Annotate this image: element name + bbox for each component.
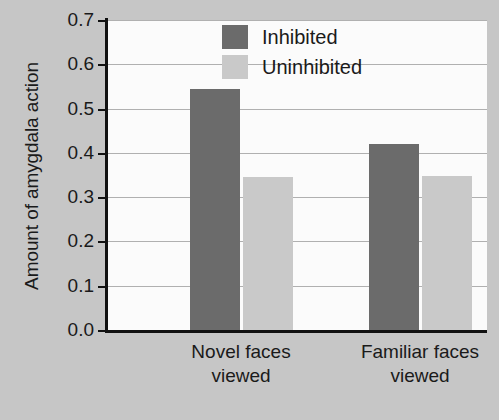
- chart-legend: InhibitedUninhibited: [222, 22, 472, 82]
- y-axis-tick: [98, 330, 107, 332]
- gridline: [108, 153, 487, 154]
- y-axis-tick-label: 0.7: [38, 9, 94, 31]
- legend-label: Uninhibited: [262, 56, 362, 79]
- x-axis-label-line: Novel faces: [156, 340, 326, 364]
- x-axis-label-line: Familiar faces: [335, 340, 499, 364]
- bar-inhibited-1: [369, 144, 419, 330]
- y-axis-tick-label: 0.0: [38, 319, 94, 341]
- y-axis-tick-label: 0.3: [38, 186, 94, 208]
- gridline: [108, 109, 487, 110]
- y-axis-tick: [98, 64, 107, 66]
- y-axis-tick: [98, 153, 107, 155]
- x-axis-label-line: viewed: [335, 364, 499, 388]
- gridline: [108, 20, 487, 21]
- x-axis-group-label-0: Novel facesviewed: [156, 340, 326, 388]
- y-axis-tick: [98, 197, 107, 199]
- y-axis-tick-label: 0.5: [38, 98, 94, 120]
- legend-item-uninhibited: Uninhibited: [222, 52, 472, 82]
- x-axis-label-line: viewed: [156, 364, 326, 388]
- y-axis-tick-label: 0.4: [38, 142, 94, 164]
- y-axis-tick-label: 0.6: [38, 53, 94, 75]
- y-axis-tick: [98, 241, 107, 243]
- y-axis-tick-labels: 0.70.60.50.40.30.20.10.0: [38, 0, 94, 420]
- x-axis-group-label-1: Familiar facesviewed: [335, 340, 499, 388]
- y-axis-tick-label: 0.1: [38, 275, 94, 297]
- legend-item-inhibited: Inhibited: [222, 22, 472, 52]
- bar-inhibited-0: [190, 89, 240, 330]
- y-axis-tick: [98, 20, 107, 22]
- legend-swatch-icon: [222, 25, 248, 49]
- bar-uninhibited-0: [243, 177, 293, 330]
- bar-uninhibited-1: [422, 176, 472, 330]
- y-axis-tick: [98, 286, 107, 288]
- y-axis-tick-label: 0.2: [38, 230, 94, 252]
- y-axis-tick: [98, 109, 107, 111]
- legend-label: Inhibited: [262, 26, 338, 49]
- bar-chart-figure: Amount of amygdala action 0.70.60.50.40.…: [0, 0, 499, 420]
- legend-swatch-icon: [222, 55, 248, 79]
